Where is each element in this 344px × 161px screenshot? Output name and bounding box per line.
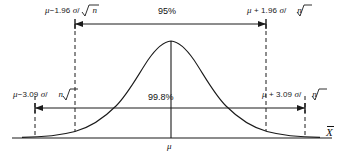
label-mu-minus-3-09-sigma-sqrt-n: μ−3.09 σ/n (13, 90, 63, 99)
divider-symbol: / (77, 6, 79, 15)
distribution-diagram-svg (0, 0, 344, 161)
coefficient-value: 1.96 (54, 6, 70, 15)
radicand-n: n (59, 89, 64, 99)
mu-symbol: μ (262, 89, 267, 99)
radical-glyph-lower-left (63, 89, 78, 100)
radicand-n: n (312, 89, 317, 99)
radicand-n: n (93, 5, 98, 15)
interval-95-arrow (75, 19, 266, 29)
interval-99-8-percent-label: 99.8% (148, 92, 174, 102)
divider-symbol: / (45, 90, 47, 99)
normal-distribution-figure: μ−1.96 σ/n μ + 1.96 σ/n μ−3.09 σ/n μ + 3… (0, 0, 344, 161)
operator-symbol: + (254, 6, 259, 15)
coefficient-value: 3.09 (276, 90, 292, 99)
divider-symbol: / (284, 6, 286, 15)
mu-symbol: μ (247, 5, 252, 15)
coefficient-value: 1.96 (261, 6, 277, 15)
interval-95-percent-label: 95% (158, 6, 176, 16)
label-mu-plus-1-96-sigma-sqrt-n: μ + 1.96 σ/n (247, 6, 302, 15)
label-mu-minus-1-96-sigma-sqrt-n: μ−1.96 σ/n (45, 6, 97, 15)
operator-symbol: + (269, 90, 274, 99)
divider-symbol: / (299, 90, 301, 99)
radicand-n: n (297, 5, 302, 15)
x-bar-axis-label: X (326, 126, 334, 138)
coefficient-value: 3.09 (22, 90, 38, 99)
x-bar-letter: X (326, 126, 333, 138)
mu-axis-tick-label: μ (167, 141, 172, 151)
label-mu-plus-3-09-sigma-sqrt-n: μ + 3.09 σ/n (262, 90, 317, 99)
